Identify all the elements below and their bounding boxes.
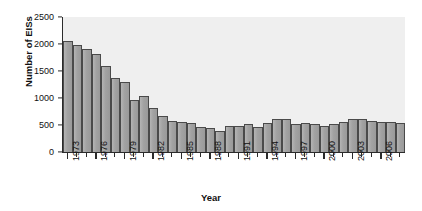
y-tick-label: 1000 bbox=[14, 93, 54, 103]
bar bbox=[196, 127, 206, 152]
x-tick-mark bbox=[314, 153, 315, 157]
y-tick-mark bbox=[58, 97, 62, 98]
bar bbox=[339, 122, 349, 152]
x-axis-title: Year bbox=[0, 192, 422, 203]
x-tick-mark bbox=[209, 153, 210, 159]
x-tick-mark bbox=[390, 153, 391, 157]
x-tick-mark bbox=[266, 153, 267, 159]
x-tick-mark bbox=[371, 153, 372, 157]
x-tick-mark bbox=[190, 153, 191, 157]
y-tick-label: 2000 bbox=[14, 39, 54, 49]
bar bbox=[168, 121, 178, 152]
bar bbox=[396, 123, 406, 152]
x-tick-mark bbox=[380, 153, 381, 159]
y-tick-label: 1500 bbox=[14, 66, 54, 76]
x-tick-label: 1994 bbox=[270, 141, 280, 161]
bar bbox=[101, 66, 111, 152]
bar bbox=[225, 126, 235, 152]
bar bbox=[253, 127, 263, 152]
x-tick-mark bbox=[399, 153, 400, 157]
bar bbox=[82, 49, 92, 152]
x-tick-mark bbox=[276, 153, 277, 157]
x-tick-mark bbox=[95, 153, 96, 159]
x-tick-mark bbox=[181, 153, 182, 159]
bar bbox=[92, 54, 102, 152]
x-tick-mark bbox=[219, 153, 220, 157]
plot-area bbox=[62, 17, 405, 153]
x-tick-label: 2000 bbox=[327, 141, 337, 161]
x-tick-mark bbox=[124, 153, 125, 159]
x-tick-mark bbox=[114, 153, 115, 157]
y-tick-mark bbox=[58, 16, 62, 17]
y-tick-mark bbox=[58, 70, 62, 71]
x-tick-mark bbox=[171, 153, 172, 157]
x-tick-mark bbox=[247, 153, 248, 157]
y-tick-label: 2500 bbox=[14, 12, 54, 22]
x-tick-label: 2003 bbox=[356, 141, 366, 161]
bar bbox=[310, 124, 320, 152]
x-tick-mark bbox=[304, 153, 305, 157]
x-tick-label: 1973 bbox=[71, 141, 81, 161]
x-tick-mark bbox=[361, 153, 362, 157]
x-tick-label: 1997 bbox=[299, 141, 309, 161]
x-tick-mark bbox=[162, 153, 163, 157]
y-tick-mark bbox=[58, 124, 62, 125]
x-tick-mark bbox=[105, 153, 106, 157]
x-tick-label: 1985 bbox=[185, 141, 195, 161]
y-tick-label: 500 bbox=[14, 120, 54, 130]
x-tick-label: 2006 bbox=[384, 141, 394, 161]
bar bbox=[139, 96, 149, 152]
x-tick-label: 1979 bbox=[128, 141, 138, 161]
bar-series bbox=[63, 17, 405, 152]
x-tick-mark bbox=[285, 153, 286, 157]
x-tick-mark bbox=[352, 153, 353, 159]
x-tick-mark bbox=[323, 153, 324, 159]
x-tick-mark bbox=[143, 153, 144, 157]
bar bbox=[73, 45, 83, 152]
bar bbox=[111, 78, 121, 152]
bar bbox=[367, 121, 377, 152]
x-tick-mark bbox=[76, 153, 77, 157]
y-tick-mark bbox=[58, 43, 62, 44]
x-tick-mark bbox=[152, 153, 153, 159]
x-tick-mark bbox=[133, 153, 134, 157]
x-tick-label: 1976 bbox=[99, 141, 109, 161]
y-tick-label: 0 bbox=[14, 147, 54, 157]
x-tick-mark bbox=[86, 153, 87, 157]
bar bbox=[63, 41, 73, 152]
x-tick-label: 1991 bbox=[242, 141, 252, 161]
x-tick-mark bbox=[295, 153, 296, 159]
bar bbox=[282, 119, 292, 152]
x-tick-mark bbox=[333, 153, 334, 157]
x-tick-mark bbox=[228, 153, 229, 157]
chart-figure: Number of EISs 05001000150020002500 1973… bbox=[0, 0, 422, 211]
y-tick-mark bbox=[58, 151, 62, 152]
x-tick-mark bbox=[257, 153, 258, 157]
x-tick-mark bbox=[238, 153, 239, 159]
x-tick-label: 1988 bbox=[213, 141, 223, 161]
x-tick-mark bbox=[200, 153, 201, 157]
x-tick-label: 1982 bbox=[156, 141, 166, 161]
x-tick-mark bbox=[342, 153, 343, 157]
x-tick-mark bbox=[67, 153, 68, 159]
